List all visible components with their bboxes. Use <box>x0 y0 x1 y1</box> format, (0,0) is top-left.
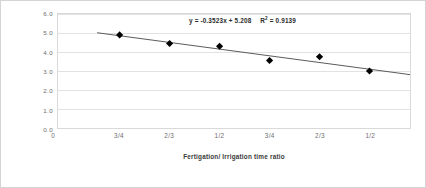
x-axis-tick-label: 3/4 <box>265 132 275 139</box>
data-point-marker <box>316 53 323 60</box>
plot-area <box>57 13 411 129</box>
trendline <box>97 33 410 76</box>
x-axis-tick-labels: 3/42/31/23/42/31/2 <box>57 132 411 146</box>
r-squared-value: = 0.9139 <box>268 17 296 24</box>
y-axis-tick-label: 3.0 <box>27 68 53 75</box>
trendline-group <box>97 33 410 76</box>
y-axis-tick-label: 0.0 <box>27 126 53 133</box>
gridlines-group <box>58 14 410 109</box>
y-axis-tick-label: 1.0 <box>27 106 53 113</box>
y-axis-tick-label: 2.0 <box>27 87 53 94</box>
trendline-equation-annotation: y = -0.3523x + 5.208R2 = 0.9139 <box>189 16 296 24</box>
x-axis-tick-label: 2/3 <box>315 132 325 139</box>
data-point-marker <box>166 40 173 47</box>
y-axis-tick-labels: 6.05.04.03.02.01.00.0 <box>27 13 53 129</box>
x-axis-tick-label: 3/4 <box>114 132 124 139</box>
r-squared-label: R2 = 0.9139 <box>260 17 296 24</box>
data-point-marker <box>266 57 273 64</box>
x-axis-tick-label: 1/2 <box>365 132 375 139</box>
trendline-equation-text: y = -0.3523x + 5.208 <box>189 17 251 24</box>
x-axis-title: Fertigation/ Irrigation time ratio <box>57 153 411 160</box>
plot-svg <box>58 14 410 128</box>
y-axis-tick-label: 6.0 <box>27 10 53 17</box>
data-point-marker <box>116 31 123 38</box>
y-axis-tick-label: 4.0 <box>27 48 53 55</box>
x-axis-origin-label: 0 <box>51 132 55 139</box>
x-axis-tick-label: 1/2 <box>215 132 225 139</box>
y-axis-tick-label: 5.0 <box>27 29 53 36</box>
chart-figure: Yield ton/fed 6.05.04.03.02.01.00.0 y = … <box>0 0 426 188</box>
x-axis-tick-label: 2/3 <box>164 132 174 139</box>
